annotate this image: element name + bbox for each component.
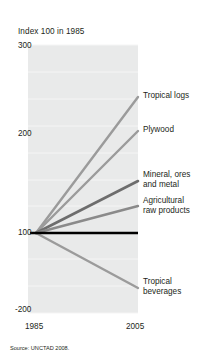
series-label-tropical-logs: Tropical logs — [143, 91, 189, 101]
series-line-mineral-ores-and-metal — [36, 181, 138, 233]
source-note: Source: UNCTAD 2008. — [10, 345, 69, 351]
series-line-agricultural-raw-products — [36, 206, 138, 233]
y-axis-tick-200: 200 — [18, 129, 32, 138]
chart-figure: Index 100 in 1985 300 20 — [0, 0, 207, 363]
series-label-tropical-beverages: Tropical beverages — [143, 277, 181, 296]
x-axis-tick-1985: 1985 — [25, 322, 43, 331]
y-axis-tick-neg200: -200 — [15, 305, 31, 314]
series-label-plywood: Plywood — [143, 125, 174, 135]
series-line-tropical-beverages — [36, 233, 138, 288]
series-line-plywood — [36, 131, 138, 233]
y-axis-tick-300: 300 — [18, 41, 32, 50]
x-axis-tick-2005: 2005 — [126, 322, 144, 331]
series-label-agricultural-raw-products: Agricultural raw products — [143, 196, 190, 215]
series-line-tropical-logs — [36, 97, 138, 233]
series-label-mineral-ores-and-metal: Mineral, ores and metal — [143, 170, 190, 189]
y-axis-tick-100: 100 — [18, 228, 32, 237]
